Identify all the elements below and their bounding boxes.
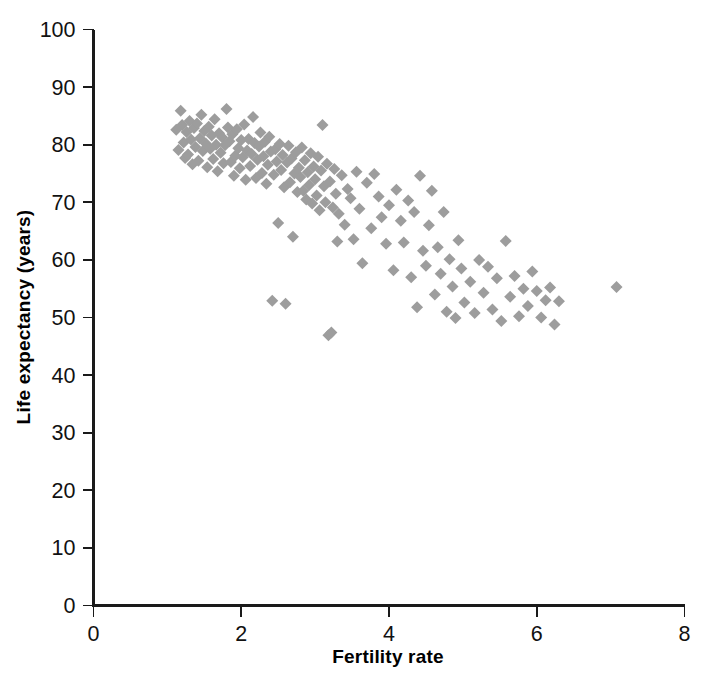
data-point-marker <box>429 288 441 300</box>
y-tick-label: 80 <box>52 133 76 157</box>
data-point-marker <box>317 119 329 131</box>
data-point-marker <box>348 233 360 245</box>
y-axis-title: Life expectancy (years) <box>13 210 34 425</box>
data-point-marker <box>495 315 507 327</box>
data-point-marker <box>458 297 470 309</box>
data-point-marker <box>345 192 357 204</box>
data-point-marker <box>387 264 399 276</box>
x-tick-label: 8 <box>679 622 691 646</box>
data-point-marker <box>473 254 485 266</box>
y-tick-label: 40 <box>52 364 76 388</box>
y-tick-label: 10 <box>52 536 76 560</box>
data-point-marker <box>513 310 525 322</box>
data-point-marker <box>376 211 388 223</box>
y-tick-label: 0 <box>64 594 76 618</box>
y-tick-label: 20 <box>52 479 76 503</box>
chart-canvas: 02468 0102030405060708090100 Fertility r… <box>0 0 716 690</box>
data-point-marker <box>350 166 362 178</box>
data-point-marker <box>356 257 368 269</box>
data-point-marker <box>411 301 423 313</box>
data-points-layer <box>170 103 622 341</box>
data-point-marker <box>247 111 259 123</box>
data-point-marker <box>504 291 516 303</box>
data-point-marker <box>426 185 438 197</box>
data-point-marker <box>395 215 407 227</box>
y-tick-label: 90 <box>52 76 76 100</box>
data-point-marker <box>444 253 456 265</box>
data-point-marker <box>420 260 432 272</box>
data-point-marker <box>438 206 450 218</box>
y-tick-label: 100 <box>40 18 76 42</box>
data-point-marker <box>383 199 395 211</box>
data-point-marker <box>365 222 377 234</box>
y-tick-label: 60 <box>52 248 76 272</box>
data-point-marker <box>280 298 292 310</box>
data-point-marker <box>432 241 444 253</box>
data-point-marker <box>449 312 461 324</box>
data-point-marker <box>522 300 534 312</box>
data-point-marker <box>517 283 529 295</box>
data-point-marker <box>414 170 426 182</box>
data-point-marker <box>611 281 623 293</box>
data-point-marker <box>331 235 343 247</box>
data-point-marker <box>373 191 385 203</box>
data-point-marker <box>482 261 494 273</box>
data-point-marker <box>441 306 453 318</box>
data-point-marker <box>342 183 354 195</box>
data-point-marker <box>464 276 476 288</box>
data-point-marker <box>500 235 512 247</box>
axes-layer <box>94 30 685 606</box>
data-point-marker <box>380 238 392 250</box>
data-point-marker <box>361 177 373 189</box>
data-point-marker <box>455 263 467 275</box>
x-axis-title: Fertility rate <box>332 646 444 667</box>
data-point-marker <box>368 168 380 180</box>
data-point-marker <box>447 280 459 292</box>
data-point-marker <box>408 206 420 218</box>
x-tick-label: 2 <box>235 622 247 646</box>
x-tick-label: 6 <box>531 622 543 646</box>
data-point-marker <box>452 234 464 246</box>
data-point-marker <box>272 217 284 229</box>
data-point-marker <box>526 265 538 277</box>
data-point-marker <box>266 295 278 307</box>
y-tick-label: 30 <box>52 421 76 445</box>
data-point-marker <box>390 184 402 196</box>
data-point-marker <box>544 282 556 294</box>
data-point-marker <box>405 271 417 283</box>
data-point-marker <box>353 203 365 215</box>
data-point-marker <box>469 307 481 319</box>
data-point-marker <box>531 285 543 297</box>
data-point-marker <box>553 295 565 307</box>
x-tick-label: 4 <box>383 622 395 646</box>
y-tick-label: 70 <box>52 191 76 215</box>
data-point-marker <box>491 272 503 284</box>
data-point-marker <box>540 294 552 306</box>
data-point-marker <box>478 287 490 299</box>
y-tick-label: 50 <box>52 306 76 330</box>
y-axis-ticks: 0102030405060708090100 <box>40 18 94 618</box>
data-point-marker <box>240 174 252 186</box>
data-point-marker <box>260 178 272 190</box>
x-tick-label: 0 <box>88 622 100 646</box>
data-point-marker <box>175 105 187 117</box>
data-point-marker <box>486 303 498 315</box>
x-axis-ticks: 02468 <box>88 606 691 646</box>
data-point-marker <box>287 231 299 243</box>
data-point-marker <box>330 188 342 200</box>
data-point-marker <box>398 237 410 249</box>
axis-frame <box>94 30 685 606</box>
data-point-marker <box>509 270 521 282</box>
data-point-marker <box>417 245 429 257</box>
data-point-marker <box>339 219 351 231</box>
data-point-marker <box>535 312 547 324</box>
scatter-chart: 02468 0102030405060708090100 Fertility r… <box>0 0 716 690</box>
data-point-marker <box>220 103 232 115</box>
data-point-marker <box>423 219 435 231</box>
data-point-marker <box>548 318 560 330</box>
data-point-marker <box>435 268 447 280</box>
data-point-marker <box>402 195 414 207</box>
